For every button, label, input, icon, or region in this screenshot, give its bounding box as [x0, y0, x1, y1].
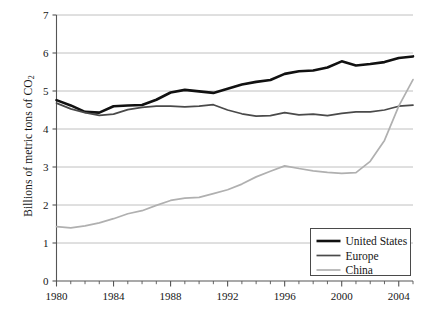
x-tick-label-2004: 2004: [388, 290, 411, 302]
x-axis-ticks-group: [57, 281, 414, 287]
chart-figure: Billions of metric tons of CO2 01234567 …: [0, 0, 430, 321]
x-tick-label-1980: 1980: [46, 290, 69, 302]
x-axis-tick-labels-group: 1980198419881992199620002004: [46, 290, 411, 302]
x-tick-label-1984: 1984: [103, 290, 126, 302]
x-tick-label-1992: 1992: [217, 290, 239, 302]
data-series-group: [57, 56, 414, 227]
y-tick-label-6: 6: [43, 47, 49, 59]
legend-label-china[interactable]: China: [346, 264, 373, 276]
y-tick-label-4: 4: [43, 123, 49, 135]
legend-label-united-states[interactable]: United States: [346, 235, 408, 247]
y-tick-label-0: 0: [43, 275, 49, 287]
y-tick-label-1: 1: [43, 237, 49, 249]
legend-label-europe[interactable]: Europe: [346, 250, 379, 263]
line-chart-plot: 01234567 1980198419881992199620002004 Un…: [0, 0, 430, 321]
y-tick-label-5: 5: [43, 85, 49, 97]
x-tick-label-2000: 2000: [331, 290, 354, 302]
y-tick-label-3: 3: [43, 161, 49, 173]
y-tick-label-2: 2: [43, 199, 49, 211]
series-line-europe: [57, 103, 414, 116]
series-line-united-states: [57, 56, 414, 112]
x-tick-label-1996: 1996: [274, 290, 297, 302]
series-line-china: [57, 80, 414, 228]
legend-group[interactable]: United StatesEuropeChina: [311, 229, 411, 277]
y-axis-tick-labels-group: 01234567: [43, 9, 49, 287]
gridlines-group: [57, 15, 414, 243]
x-tick-label-1988: 1988: [160, 290, 183, 302]
y-tick-label-7: 7: [43, 9, 49, 21]
